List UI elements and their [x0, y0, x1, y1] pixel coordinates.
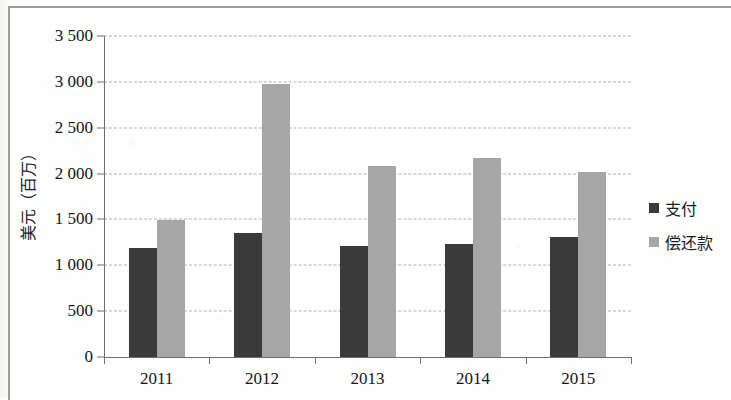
- x-axis-tick-label: 2012: [209, 369, 314, 389]
- legend-item-支付: 支付: [649, 196, 713, 220]
- y-axis-tick-label: 2 000: [21, 164, 93, 184]
- bar-偿还款-2013: [368, 166, 396, 357]
- gridline: [104, 81, 631, 82]
- legend-label: 支付: [665, 196, 697, 220]
- bar-偿还款-2011: [157, 220, 185, 357]
- y-axis-tick-mark: [97, 219, 104, 220]
- legend-swatch-icon: [649, 203, 659, 213]
- y-axis-tick-label: 1 500: [21, 209, 93, 229]
- x-axis-tick-mark: [526, 357, 527, 364]
- bar-偿还款-2012: [262, 84, 290, 357]
- y-axis-tick-label: 0: [21, 347, 93, 367]
- gridline: [104, 36, 631, 37]
- gridline: [104, 127, 631, 128]
- x-axis-tick-label: 2011: [104, 369, 209, 389]
- x-axis-tick-label: 2015: [526, 369, 631, 389]
- x-axis-tick-label: 2013: [315, 369, 420, 389]
- legend-item-偿还款: 偿还款: [649, 230, 713, 254]
- bar-支付-2011: [129, 248, 157, 357]
- x-axis-tick-mark: [631, 357, 632, 364]
- x-axis-tick-mark: [315, 357, 316, 364]
- bar-支付-2013: [340, 246, 368, 357]
- bar-偿还款-2015: [578, 172, 606, 357]
- bar-支付-2012: [234, 233, 262, 357]
- chart-legend: 支付偿还款: [649, 196, 713, 264]
- bar-偿还款-2014: [473, 158, 501, 357]
- x-axis-line: [104, 357, 631, 358]
- y-axis-tick-label: 3 500: [21, 26, 93, 46]
- y-axis-tick-mark: [97, 357, 104, 358]
- y-axis-tick-mark: [97, 36, 104, 37]
- y-axis-tick-mark: [97, 81, 104, 82]
- legend-label: 偿还款: [665, 230, 713, 254]
- y-axis-line: [104, 36, 105, 357]
- y-axis-tick-mark: [97, 127, 104, 128]
- x-axis-tick-mark: [420, 357, 421, 364]
- y-axis-tick-label: 3 000: [21, 72, 93, 92]
- bar-支付-2015: [550, 237, 578, 357]
- y-axis-tick-mark: [97, 265, 104, 266]
- x-axis-tick-label: 2014: [420, 369, 525, 389]
- y-axis-tick-mark: [97, 173, 104, 174]
- y-axis-tick-label: 2 500: [21, 118, 93, 138]
- bar-支付-2014: [445, 244, 473, 357]
- y-axis-tick-label: 500: [21, 301, 93, 321]
- y-axis-tick-mark: [97, 311, 104, 312]
- x-axis-tick-mark: [209, 357, 210, 364]
- y-axis-tick-label: 1 000: [21, 255, 93, 275]
- x-axis-tick-mark: [104, 357, 105, 364]
- legend-swatch-icon: [649, 237, 659, 247]
